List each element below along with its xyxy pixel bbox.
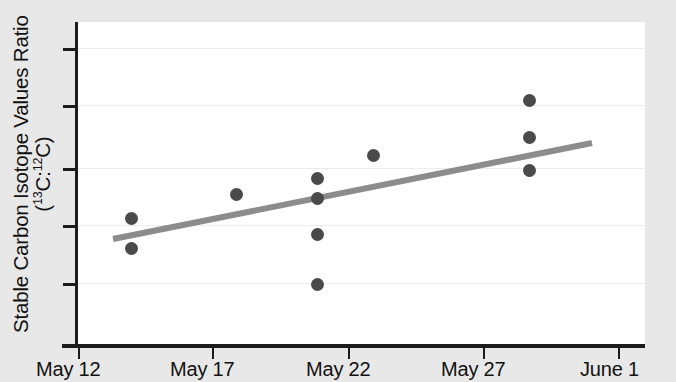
y-axis-tick: [63, 48, 78, 51]
y-axis-tick: [63, 168, 78, 171]
y-axis-tick: [63, 105, 78, 108]
data-point: [367, 149, 380, 162]
y-axis-tick: [63, 283, 78, 286]
x-axis-tick-label: May 12: [36, 358, 100, 381]
superscript-13: 13: [31, 191, 45, 205]
gridline: [78, 225, 645, 226]
x-axis-tick-label: May 17: [170, 358, 234, 381]
y-axis-label-line2: (13C:12C): [32, 15, 54, 333]
data-point: [311, 172, 324, 185]
data-point: [125, 242, 138, 255]
data-point: [311, 278, 324, 291]
x-axis-tick-label: May 22: [306, 358, 370, 381]
data-point: [523, 94, 536, 107]
y-axis-label-line1: Stable Carbon Isotope Values Ratio: [10, 15, 32, 333]
data-point: [230, 188, 243, 201]
plot-area: [78, 22, 645, 344]
data-point: [311, 228, 324, 241]
gridline: [78, 48, 645, 49]
x-axis-line: [62, 344, 645, 348]
gridline: [78, 105, 645, 106]
gridline: [78, 283, 645, 284]
y-axis-line: [75, 22, 78, 344]
data-point: [125, 212, 138, 225]
y-axis-label-text: Stable Carbon Isotope Values Ratio (13C:…: [10, 15, 54, 333]
y-axis-label: Stable Carbon Isotope Values Ratio (13C:…: [0, 0, 64, 348]
gridline: [78, 168, 645, 169]
data-point: [311, 192, 324, 205]
y-axis-tick: [63, 225, 78, 228]
carbon-close: C): [31, 136, 54, 157]
carbon-colon: C:: [31, 171, 54, 191]
data-point: [523, 164, 536, 177]
scatter-chart-figure: Stable Carbon Isotope Values Ratio (13C:…: [0, 0, 676, 382]
x-axis-tick-label: May 27: [441, 358, 505, 381]
x-axis-tick-label: June 1: [580, 358, 639, 381]
data-point: [523, 131, 536, 144]
superscript-12: 12: [31, 158, 45, 172]
